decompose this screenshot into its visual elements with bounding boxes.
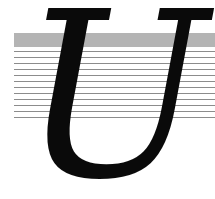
initial-letter: U [22, 0, 208, 199]
